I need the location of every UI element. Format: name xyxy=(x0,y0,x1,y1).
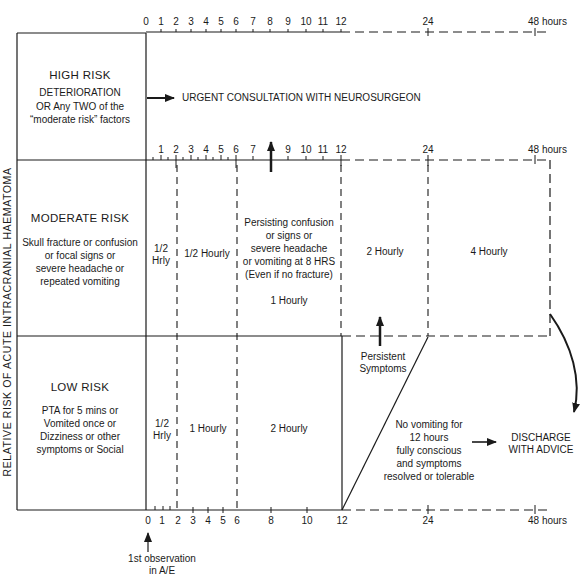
svg-text:6: 6 xyxy=(234,515,240,526)
svg-text:severe headache: severe headache xyxy=(251,243,328,254)
svg-text:(Even if no fracture): (Even if no fracture) xyxy=(245,269,333,280)
svg-text:PTA for 5 mins or: PTA for 5 mins or xyxy=(42,405,119,416)
svg-text:24: 24 xyxy=(422,144,434,155)
svg-text:12 hours: 12 hours xyxy=(410,432,449,443)
svg-text:12: 12 xyxy=(335,16,347,27)
svg-text:11: 11 xyxy=(318,16,329,27)
svg-text:12: 12 xyxy=(335,144,347,155)
svg-text:48 hours: 48 hours xyxy=(528,144,567,155)
svg-text:2: 2 xyxy=(173,16,179,27)
high-risk-row: HIGH RISK DETERIORATION OR Any TWO of th… xyxy=(30,69,421,125)
svg-text:1/2: 1/2 xyxy=(155,418,169,429)
svg-text:Persisting confusion: Persisting confusion xyxy=(244,217,334,228)
first-observation-marker: 1st observation in A/E xyxy=(128,533,196,576)
svg-text:1st observation: 1st observation xyxy=(128,553,196,564)
svg-text:1 Hourly: 1 Hourly xyxy=(270,295,307,306)
svg-text:10: 10 xyxy=(300,16,312,27)
svg-text:5: 5 xyxy=(218,16,224,27)
svg-text:4: 4 xyxy=(205,515,211,526)
svg-text:symptoms or Social: symptoms or Social xyxy=(36,444,123,455)
svg-text:or focal signs or: or focal signs or xyxy=(45,250,116,261)
svg-text:7: 7 xyxy=(250,16,256,27)
svg-text:Vomited once or: Vomited once or xyxy=(44,418,117,429)
svg-text:2 Hourly: 2 Hourly xyxy=(270,423,307,434)
discharge-action: DISCHARGE xyxy=(511,432,571,443)
svg-text:or signs or: or signs or xyxy=(266,230,313,241)
moderate-risk-title: MODERATE RISK xyxy=(31,212,129,224)
svg-text:6: 6 xyxy=(233,16,239,27)
svg-text:Persistent: Persistent xyxy=(361,351,406,362)
svg-text:in A/E: in A/E xyxy=(149,565,175,576)
svg-text:DETERIORATION: DETERIORATION xyxy=(39,87,120,98)
svg-text:3: 3 xyxy=(188,16,194,27)
svg-text:1/2 Hourly: 1/2 Hourly xyxy=(184,248,230,259)
svg-text:Dizziness or other: Dizziness or other xyxy=(40,431,121,442)
svg-text:8: 8 xyxy=(268,515,274,526)
svg-text:or vomiting at 8 HRS: or vomiting at 8 HRS xyxy=(243,256,336,267)
svg-text:4: 4 xyxy=(203,16,209,27)
svg-text:48 hours: 48 hours xyxy=(528,515,567,526)
low-risk-title: LOW RISK xyxy=(51,381,110,393)
svg-text:OR Any TWO of the: OR Any TWO of the xyxy=(36,101,125,112)
svg-text:1: 1 xyxy=(158,16,164,27)
svg-text:and symptoms: and symptoms xyxy=(396,458,461,469)
svg-text:5: 5 xyxy=(218,144,224,155)
svg-text:4 Hourly: 4 Hourly xyxy=(470,246,507,257)
svg-text:3: 3 xyxy=(190,515,196,526)
svg-text:“moderate risk” factors: “moderate risk” factors xyxy=(30,114,130,125)
svg-text:0: 0 xyxy=(145,515,151,526)
svg-text:24: 24 xyxy=(422,515,434,526)
svg-text:Hrly: Hrly xyxy=(153,430,171,441)
svg-text:7: 7 xyxy=(250,144,256,155)
top-time-axis: 0 1 2 3 4 5 6 7 8 9 10 11 12 24 48 hours xyxy=(143,16,567,36)
svg-text:10: 10 xyxy=(300,144,312,155)
svg-text:6: 6 xyxy=(233,144,239,155)
curved-discharge-arrow-icon xyxy=(550,314,577,412)
head-injury-observation-flowchart: RELATIVE RISK OF ACUTE INTRACRANIAL HAEM… xyxy=(0,0,585,580)
y-axis-label: RELATIVE RISK OF ACUTE INTRACRANIAL HAEM… xyxy=(1,168,13,477)
svg-text:1: 1 xyxy=(159,515,165,526)
svg-text:2: 2 xyxy=(173,144,179,155)
svg-text:Symptoms: Symptoms xyxy=(359,363,406,374)
svg-text:2: 2 xyxy=(175,515,181,526)
svg-text:Skull fracture or confusion: Skull fracture or confusion xyxy=(22,237,138,248)
svg-text:repeated vomiting: repeated vomiting xyxy=(40,276,120,287)
svg-text:severe headache or: severe headache or xyxy=(36,263,125,274)
svg-text:Hrly: Hrly xyxy=(152,255,170,266)
svg-text:No vomiting for: No vomiting for xyxy=(395,419,463,430)
svg-text:9: 9 xyxy=(285,16,291,27)
svg-text:4: 4 xyxy=(203,144,209,155)
svg-text:2 Hourly: 2 Hourly xyxy=(366,246,403,257)
middle-time-axis: 1 2 3 4 5 6 7 9 10 11 12 24 48 hours xyxy=(153,144,567,168)
svg-text:11: 11 xyxy=(318,144,329,155)
svg-text:8: 8 xyxy=(267,16,273,27)
high-risk-title: HIGH RISK xyxy=(49,69,111,81)
svg-text:10: 10 xyxy=(301,515,313,526)
svg-text:1/2: 1/2 xyxy=(154,243,168,254)
urgent-consultation-action: URGENT CONSULTATION WITH NEUROSURGEON xyxy=(182,92,421,103)
svg-text:9: 9 xyxy=(285,144,291,155)
svg-text:0: 0 xyxy=(143,16,149,27)
svg-text:1: 1 xyxy=(158,144,164,155)
moderate-risk-row: MODERATE RISK Skull fracture or confusio… xyxy=(22,212,507,306)
svg-text:24: 24 xyxy=(422,16,434,27)
svg-text:3: 3 xyxy=(188,144,194,155)
svg-text:resolved or tolerable: resolved or tolerable xyxy=(384,471,475,482)
svg-text:WITH ADVICE: WITH ADVICE xyxy=(508,444,573,455)
svg-text:12: 12 xyxy=(336,515,348,526)
svg-text:1 Hourly: 1 Hourly xyxy=(189,423,226,434)
svg-text:fully conscious: fully conscious xyxy=(396,445,461,456)
svg-text:48 hours: 48 hours xyxy=(528,16,567,27)
svg-text:5: 5 xyxy=(220,515,226,526)
low-risk-row: LOW RISK PTA for 5 mins or Vomited once … xyxy=(36,351,573,482)
bottom-time-axis: 0 1 2 3 4 5 6 8 10 12 24 48 hours xyxy=(145,505,567,526)
